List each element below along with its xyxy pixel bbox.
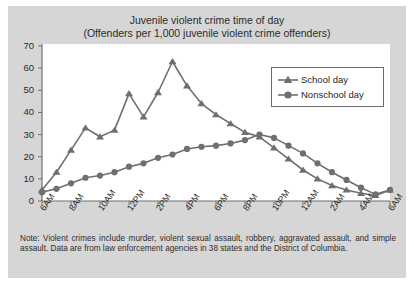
chart-legend: School day Nonschool day bbox=[271, 67, 384, 107]
y-tick-label: 40 bbox=[12, 106, 34, 117]
y-tick-label: 60 bbox=[12, 62, 34, 73]
triangle-marker-icon bbox=[277, 74, 299, 86]
y-tick-label: 20 bbox=[12, 151, 34, 162]
legend-label-nonschool-day: Nonschool day bbox=[301, 89, 364, 100]
y-tick-label: 0 bbox=[12, 195, 34, 206]
circle-marker-icon bbox=[277, 89, 299, 101]
y-tick-label: 50 bbox=[12, 84, 34, 95]
legend-label-school-day: School day bbox=[301, 74, 348, 85]
y-tick-label: 70 bbox=[12, 40, 34, 51]
y-tick-label: 10 bbox=[12, 173, 34, 184]
chart-note: Note: Violent crimes include murder, vio… bbox=[20, 234, 396, 254]
legend-item-school-day: School day bbox=[277, 72, 377, 87]
chart-figure: Juvenile violent crime time of day (Offe… bbox=[8, 6, 406, 278]
y-tick-label: 30 bbox=[12, 129, 34, 140]
legend-item-nonschool-day: Nonschool day bbox=[277, 87, 377, 102]
